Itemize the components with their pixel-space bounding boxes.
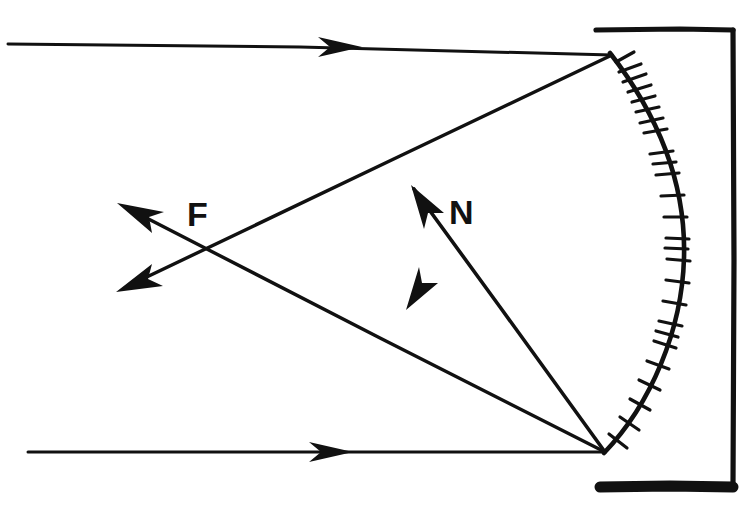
- reflected-ray-from-top: [130, 55, 612, 285]
- ray-diagram-figure: F N: [0, 0, 746, 510]
- normal-label: N: [449, 193, 474, 231]
- reflected-rays-group: [116, 55, 612, 452]
- mirror-frame-group: [596, 29, 734, 487]
- mirror-arc: [604, 53, 684, 453]
- mirror-frame-right-edge: [733, 30, 734, 484]
- reflected-ray-from-top-arrowhead-icon: [116, 264, 163, 292]
- normal-arrowhead-down-icon: [406, 267, 438, 310]
- mirror-frame-bottom-edge: [600, 486, 733, 487]
- normal-line: [414, 189, 605, 452]
- diagram-canvas: F N: [0, 0, 746, 510]
- reflected-ray-from-bottom: [131, 210, 605, 452]
- mirror-frame-top-edge: [596, 29, 733, 30]
- focal-point-label: F: [187, 195, 208, 233]
- incident-ray-top: [8, 44, 612, 55]
- incident-rays-group: [8, 37, 612, 462]
- normal-line-group: [406, 185, 605, 452]
- mirror-surface-group: [604, 52, 690, 453]
- reflected-ray-from-bottom-arrowhead-icon: [117, 203, 164, 233]
